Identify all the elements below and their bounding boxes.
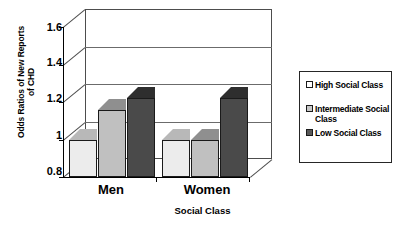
x-axis-title: Social Class [0,205,405,216]
bar-top-face [69,129,97,140]
legend-label-high: High Social Class [315,80,393,90]
legend-swatch-high-icon [306,81,313,88]
y-tick-mark-1.6 [59,27,64,28]
bar-women-low [220,98,248,177]
depth-edge-top-left [63,9,86,28]
y-axis-title-line2: of CHD [26,12,36,152]
bar-front-face [127,98,155,177]
chart-container: Odds Ratios of New Reports of CHD 1.6 1.… [0,0,405,228]
legend-item-low[interactable]: Low Social Class [306,128,393,138]
bar-top-face [191,129,219,140]
plot-area [63,9,272,177]
y-tick-mark-1.0 [59,140,64,141]
bar-front-face [191,140,219,178]
legend-item-high[interactable]: High Social Class [306,80,393,90]
x-category-men: Men [74,182,148,197]
y-tick-mark-0.8 [59,177,64,178]
bar-top-face [220,87,248,98]
depth-edge-1.4 [63,47,86,66]
bar-men-low [127,98,155,177]
gridline-1.4 [85,47,272,48]
legend-swatch-low-icon [306,129,313,136]
legend-label-low: Low Social Class [315,128,393,138]
x-tick-mark-men [156,177,157,182]
y-axis-tick-labels: 1.6 1.4 1.2 1 0.8 [36,0,62,228]
y-tick-mark-1.4 [59,65,64,66]
x-category-women: Women [163,182,251,197]
bar-top-face [162,129,190,140]
gridline-1.2 [85,84,272,85]
legend-item-intermediate[interactable]: Intermediate Social Class [306,104,393,124]
bar-women-high [162,140,190,178]
legend-swatch-intermediate-icon [306,105,313,112]
bar-front-face [69,140,97,178]
bar-men-intermediate [98,110,126,178]
y-tick-mark-1.2 [59,102,64,103]
y-tick-0.8: 0.8 [47,166,62,177]
depth-edge-1.2 [63,84,86,103]
bar-top-face [98,99,126,110]
bar-women-intermediate [191,140,219,178]
bar-front-face [220,98,248,177]
y-axis-title-line1: Odds Ratios of New Reports [16,12,26,152]
legend-label-intermediate: Intermediate Social Class [315,104,393,124]
y-tick-1.4: 1.4 [47,57,62,68]
legend: High Social Class Intermediate Social Cl… [299,71,392,163]
bar-top-face [127,87,155,98]
bar-front-face [98,110,126,178]
y-axis-title: Odds Ratios of New Reports of CHD [16,12,36,152]
bar-front-face [162,140,190,178]
bar-men-high [69,140,97,178]
depth-edge-floor-right [250,159,273,178]
